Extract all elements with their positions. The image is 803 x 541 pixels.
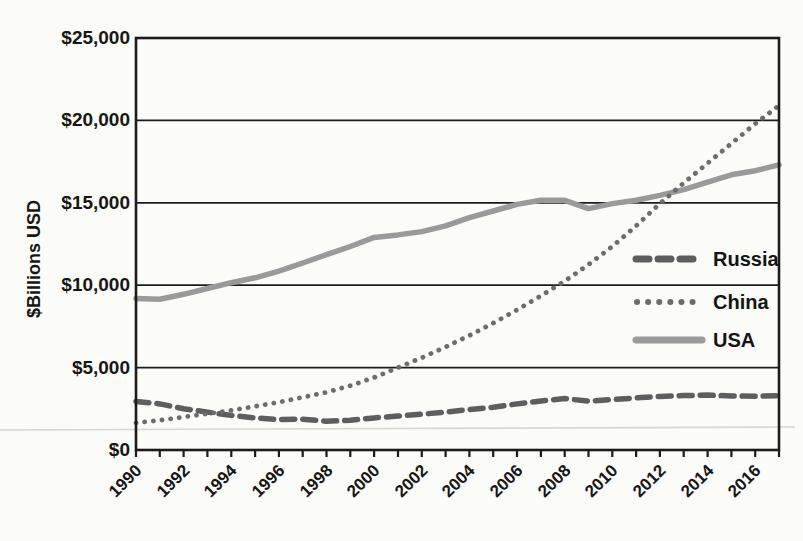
legend-item-usa: USA: [632, 327, 755, 353]
scanned-gdp-chart-page: $Billions USD $0$5,000$10,000$15,000$20,…: [0, 0, 803, 541]
legend-item-china: China: [632, 289, 769, 315]
y-axis-tick-label: $20,000: [38, 109, 130, 131]
dashed-line-icon: [632, 253, 706, 265]
y-axis-tick-label: $15,000: [38, 192, 130, 214]
dotted-line-icon: [632, 296, 706, 308]
y-axis-tick-label: $0: [38, 439, 130, 461]
legend-label-russia: Russia: [713, 248, 779, 271]
y-axis-tick-label: $25,000: [38, 27, 130, 49]
y-axis-tick-label: $10,000: [38, 274, 130, 296]
y-axis-tick-label: $5,000: [38, 357, 130, 379]
legend-label-usa: USA: [713, 329, 755, 352]
legend-item-russia: Russia: [632, 246, 779, 272]
series-line-russia: [136, 395, 779, 421]
plot-border: [136, 38, 779, 450]
solid-line-icon: [632, 334, 706, 346]
legend-label-china: China: [713, 291, 769, 314]
scan-artifact-line: [0, 427, 795, 430]
